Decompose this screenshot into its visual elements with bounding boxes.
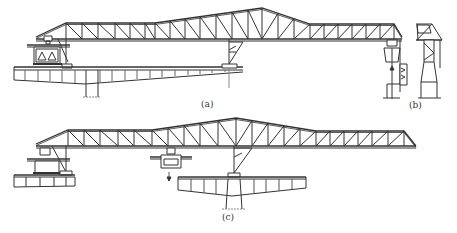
suspended-box-segment bbox=[150, 148, 192, 181]
panel-c-segment-lifting: (c) bbox=[14, 118, 416, 222]
panel-b-cross-section: (b) bbox=[409, 24, 442, 110]
panel-a-launching-gantry: (a) bbox=[14, 8, 407, 109]
panel-label-b: (b) bbox=[409, 100, 422, 110]
panel-label-c: (c) bbox=[222, 212, 234, 222]
bridge-erection-diagram: (a) (b) bbox=[0, 0, 457, 233]
middle-support-a bbox=[222, 39, 243, 88]
front-support-a bbox=[383, 40, 407, 99]
truss-girder-a bbox=[36, 8, 402, 41]
truss-girder-c bbox=[36, 118, 416, 148]
bridge-deck-a bbox=[14, 67, 243, 97]
t-frame-pier-c bbox=[178, 146, 306, 209]
panel-label-a: (a) bbox=[201, 99, 213, 109]
rear-trolley-c bbox=[14, 146, 75, 187]
